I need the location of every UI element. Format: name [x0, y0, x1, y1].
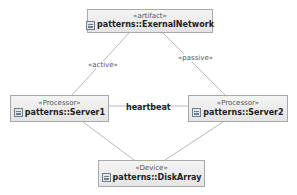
- node-title: patterns::Server2: [203, 109, 283, 117]
- processor-icon: [192, 108, 201, 117]
- node-stereotype: «Processor»: [38, 100, 80, 107]
- node-title: patterns::Server1: [25, 109, 105, 117]
- node-title: patterns::ExernalNetwork: [97, 21, 214, 29]
- edge-label-passive: «passive»: [178, 54, 213, 62]
- node-diskarray[interactable]: «Device» patterns::DiskArray: [98, 160, 205, 187]
- node-external-network[interactable]: «artifact» patterns::ExernalNetwork: [87, 9, 213, 33]
- edge-server1-diskarray[interactable]: [83, 122, 134, 160]
- node-server2[interactable]: «Processor» patterns::Server2: [188, 95, 288, 122]
- edge-external-server2[interactable]: [163, 33, 225, 95]
- artifact-icon: [86, 21, 95, 30]
- edge-server2-diskarray[interactable]: [165, 122, 223, 160]
- node-server1[interactable]: «Processor» patterns::Server1: [10, 95, 109, 122]
- node-stereotype: «Device»: [135, 165, 167, 172]
- node-stereotype: «artifact»: [133, 13, 167, 20]
- node-stereotype: «Processor»: [217, 100, 259, 107]
- device-icon: [102, 173, 111, 182]
- edge-label-heartbeat: heartbeat: [126, 103, 171, 112]
- edge-label-active: «active»: [88, 61, 118, 69]
- node-title: patterns::DiskArray: [113, 174, 202, 182]
- processor-icon: [14, 108, 23, 117]
